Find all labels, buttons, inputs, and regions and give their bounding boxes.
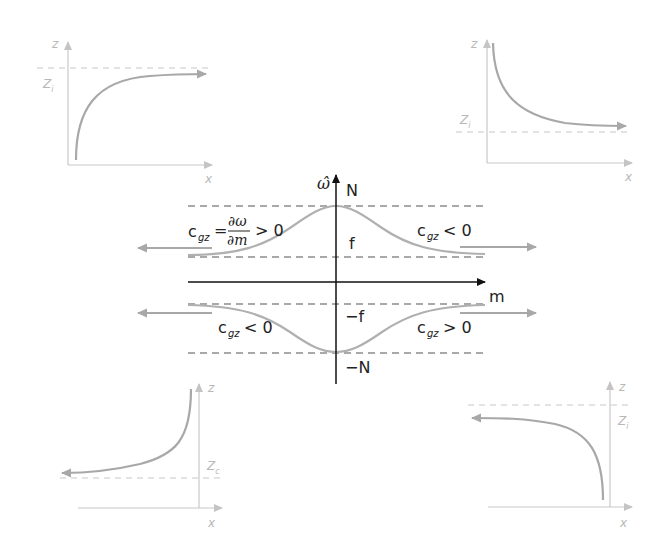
inset-level-label: Zc xyxy=(206,459,220,476)
level-label-f: f xyxy=(349,234,355,253)
m-axis-label: m xyxy=(489,287,505,306)
inset-x-label: x xyxy=(204,172,213,186)
central-dispersion-plot: ω̂ m N f −f −N c gz = ∂ω ∂m > 0 c gz < 0… xyxy=(138,174,536,384)
inset-z-label: z xyxy=(470,37,478,51)
inset-bottom-right: z Zi x xyxy=(468,380,632,530)
inset-ray-path xyxy=(62,389,191,473)
inset-ray-path xyxy=(76,74,206,160)
cgz-subscript: gz xyxy=(198,232,210,243)
fraction-numerator: ∂ω xyxy=(228,213,247,229)
level-label-N: N xyxy=(346,181,358,200)
inset-z-label: z xyxy=(207,381,215,395)
cgz-subscript: gz xyxy=(427,231,439,242)
relation: > 0 xyxy=(443,318,472,337)
level-label-minus-f: −f xyxy=(345,307,364,326)
inset-ray-path xyxy=(493,43,626,126)
inset-z-label: z xyxy=(51,37,59,51)
relation: > 0 xyxy=(255,221,284,240)
inset-top-left: z Zi x xyxy=(37,37,213,186)
annotation-upper-right: c gz < 0 xyxy=(417,221,472,242)
inset-level-label: Zi xyxy=(459,113,471,130)
relation: < 0 xyxy=(443,221,472,240)
cgz-subscript: gz xyxy=(228,328,240,339)
annotation-upper-left: c gz = ∂ω ∂m > 0 xyxy=(188,213,284,248)
cgz-symbol: c xyxy=(218,318,227,337)
level-label-minus-N: −N xyxy=(345,358,370,377)
inset-ray-path xyxy=(472,418,603,500)
cgz-symbol: c xyxy=(417,221,426,240)
inset-level-label: Zi xyxy=(42,77,54,94)
inset-x-label: x xyxy=(624,170,633,184)
omega-axis-label: ω̂ xyxy=(317,174,330,193)
equals-sign: = xyxy=(214,221,227,240)
cgz-symbol: c xyxy=(188,222,197,241)
fraction-denominator: ∂m xyxy=(227,232,248,248)
cgz-symbol: c xyxy=(417,318,426,337)
inset-x-label: x xyxy=(619,516,628,530)
annotation-lower-right: c gz > 0 xyxy=(417,318,472,339)
inset-bottom-left: z Zc x xyxy=(60,381,222,530)
inset-z-label: z xyxy=(618,380,626,394)
relation: < 0 xyxy=(244,318,273,337)
inset-top-right: z Zi x xyxy=(456,37,633,184)
diagram-svg: z Zi x z Zi x z Zc x z Zi x xyxy=(0,0,666,550)
inset-x-label: x xyxy=(207,516,216,530)
inset-level-label: Zi xyxy=(617,414,629,431)
annotation-lower-left: c gz < 0 xyxy=(218,318,273,339)
diagram-canvas: z Zi x z Zi x z Zc x z Zi x xyxy=(0,0,666,550)
cgz-subscript: gz xyxy=(427,328,439,339)
